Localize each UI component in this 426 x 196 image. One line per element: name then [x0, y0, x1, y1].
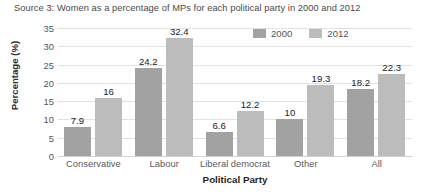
- x-axis-title: Political Party: [58, 174, 412, 185]
- legend-entry[interactable]: 2000: [253, 28, 292, 39]
- legend-label: 2000: [271, 28, 292, 39]
- x-axis-tick-label: Labour: [129, 158, 200, 169]
- bar[interactable]: [237, 111, 264, 156]
- bar-slot: 12.2: [237, 111, 264, 156]
- bar[interactable]: [276, 119, 303, 156]
- bar-group: 6.612.2: [200, 28, 271, 156]
- y-axis-tick-label: 0: [28, 151, 54, 162]
- y-axis-tick-label: 15: [28, 96, 54, 107]
- y-axis-tick-label: 20: [28, 77, 54, 88]
- bar[interactable]: [64, 127, 91, 156]
- y-axis-tick-label: 5: [28, 132, 54, 143]
- legend-swatch-icon: [309, 29, 322, 38]
- bar-slot: 7.9: [64, 127, 91, 156]
- x-axis-tick-labels: ConservativeLabourLiberal democratOtherA…: [58, 158, 412, 174]
- bar-slot: 18.2: [347, 89, 374, 156]
- bar[interactable]: [206, 132, 233, 156]
- axis-baseline: [58, 156, 412, 157]
- bar-value-label: 16: [86, 86, 131, 97]
- x-axis-tick-label: Other: [270, 158, 341, 169]
- x-axis-tick-label: All: [341, 158, 412, 169]
- bar[interactable]: [347, 89, 374, 156]
- bar[interactable]: [135, 68, 162, 157]
- bar-group: 18.222.3: [341, 28, 412, 156]
- legend-swatch-icon: [253, 29, 266, 38]
- bar-value-label: 24.2: [126, 56, 171, 67]
- bars-layer: 7.91624.232.46.612.21019.318.222.3: [58, 28, 412, 156]
- bar[interactable]: [307, 85, 334, 156]
- x-axis-tick-label: Conservative: [58, 158, 129, 169]
- chart-legend: 20002012: [253, 28, 349, 39]
- bar-value-label: 19.3: [298, 73, 343, 84]
- bar-slot: 24.2: [135, 68, 162, 157]
- y-axis-tick-label: 30: [28, 41, 54, 52]
- bar-slot: 32.4: [166, 38, 193, 156]
- bar[interactable]: [378, 74, 405, 156]
- bar-value-label: 12.2: [228, 99, 273, 110]
- y-axis-tick-label: 10: [28, 114, 54, 125]
- bar-slot: 19.3: [307, 85, 334, 156]
- bar-slot: 16: [95, 98, 122, 157]
- legend-entry[interactable]: 2012: [309, 28, 348, 39]
- bar-slot: 22.3: [378, 74, 405, 156]
- bar-group: 24.232.4: [129, 28, 200, 156]
- bar-slot: 10: [276, 119, 303, 156]
- legend-label: 2012: [327, 28, 348, 39]
- bar-chart-figure: Percentage (%) 7.91624.232.46.612.21019.…: [0, 18, 426, 196]
- bar-slot: 6.6: [206, 132, 233, 156]
- bar-value-label: 32.4: [157, 26, 202, 37]
- bar-value-label: 18.2: [338, 77, 383, 88]
- y-axis-title: Percentage (%): [9, 16, 20, 136]
- bar-value-label: 7.9: [55, 115, 100, 126]
- bar[interactable]: [95, 98, 122, 157]
- x-axis-tick-label: Liberal democrat: [200, 158, 271, 169]
- bar-group: 1019.3: [270, 28, 341, 156]
- bar-group: 7.916: [58, 28, 129, 156]
- source-caption: Source 3: Women as a percentage of MPs f…: [14, 3, 360, 13]
- bar-value-label: 22.3: [369, 62, 414, 73]
- bar-value-label: 6.6: [197, 120, 242, 131]
- bar-value-label: 10: [267, 107, 312, 118]
- y-axis-tick-label: 35: [28, 23, 54, 34]
- bar[interactable]: [166, 38, 193, 156]
- y-axis-tick-label: 25: [28, 59, 54, 70]
